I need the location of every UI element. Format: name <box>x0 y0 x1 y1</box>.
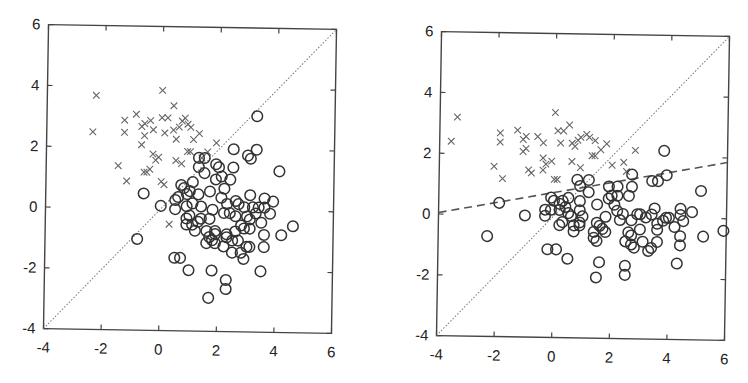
cross-marker <box>133 111 140 118</box>
circle-marker <box>546 192 557 203</box>
circle-marker <box>675 204 686 215</box>
cross-marker <box>528 170 535 177</box>
cross-marker <box>552 109 559 116</box>
circle-marker <box>557 217 568 228</box>
cross-marker <box>138 141 145 148</box>
cross-marker <box>540 167 547 174</box>
circle-marker <box>696 186 707 197</box>
right-plot-canvas: -4-20246-4-20246 <box>374 0 748 383</box>
y-tick-label: -4 <box>415 326 429 343</box>
circle-marker <box>572 174 583 185</box>
circle-marker <box>646 243 657 254</box>
cross-marker <box>161 130 168 137</box>
y-tick-label: 6 <box>32 15 41 32</box>
circle-marker <box>718 226 729 237</box>
circle-marker <box>562 253 573 264</box>
y-tick-label: 0 <box>422 205 431 222</box>
circle-marker <box>627 181 638 192</box>
circle-marker <box>540 210 551 221</box>
cross-marker <box>609 162 616 169</box>
circle-marker <box>132 234 143 245</box>
circle-marker <box>588 232 599 243</box>
circle-marker <box>183 265 194 276</box>
cross-marker <box>534 133 541 140</box>
circle-marker <box>659 145 670 156</box>
circle-marker <box>482 231 493 242</box>
cross-marker <box>89 128 96 135</box>
circle-marker <box>687 207 698 218</box>
cross-marker <box>182 115 189 122</box>
circle-marker <box>590 272 601 283</box>
plot-area: -4-20246-4-20246 <box>415 22 734 367</box>
cross-marker <box>448 138 455 145</box>
circle-marker <box>675 210 686 221</box>
cross-marker <box>523 133 530 140</box>
circle-marker <box>671 258 682 269</box>
y-tick-label: 2 <box>423 144 432 161</box>
circle-marker <box>274 166 285 177</box>
cross-marker <box>540 139 547 146</box>
circle-marker <box>643 246 654 257</box>
y-tick-label: -4 <box>22 319 36 336</box>
circle-marker <box>661 170 672 181</box>
cross-marker <box>620 159 627 166</box>
circle-marker <box>600 211 611 222</box>
circle-marker <box>190 225 201 236</box>
circle-marker <box>258 242 269 253</box>
cross-marker <box>159 87 166 94</box>
circle-marker <box>583 175 594 186</box>
cross-marker <box>196 130 203 137</box>
x-tick-label: -2 <box>94 339 108 356</box>
y-tick-label: 4 <box>31 76 40 93</box>
circle-marker <box>255 266 266 277</box>
circle-marker <box>634 224 645 235</box>
plot-area: -4-20246-4-20246 <box>22 15 341 360</box>
cross-marker <box>141 132 148 139</box>
circle-marker <box>583 187 594 198</box>
cross-marker <box>514 127 521 134</box>
circle-marker <box>187 177 198 188</box>
circle-marker <box>238 254 249 265</box>
diagonal-line <box>436 32 729 341</box>
cross-marker <box>171 102 178 109</box>
cross-marker <box>499 175 506 182</box>
circle-marker <box>216 192 227 203</box>
circle-marker <box>228 162 239 173</box>
x-tick-label: 2 <box>212 341 221 358</box>
cross-marker <box>159 114 166 121</box>
cross-marker <box>497 130 504 137</box>
y-tick-label: -2 <box>23 258 37 275</box>
cross-marker <box>152 157 159 164</box>
cross-marker <box>598 146 605 153</box>
circle-marker <box>554 220 565 231</box>
circle-marker <box>649 203 660 214</box>
cross-marker <box>150 126 157 133</box>
x-tick-label: 4 <box>662 349 671 366</box>
y-tick-label: 2 <box>30 137 39 154</box>
cross-marker <box>572 143 579 150</box>
x-tick-label: 0 <box>547 347 556 364</box>
cross-marker <box>165 114 172 121</box>
cross-marker <box>577 164 584 171</box>
cross-marker <box>540 155 547 162</box>
cross-marker <box>123 178 130 185</box>
circle-marker <box>594 257 605 268</box>
x-tick-label: 0 <box>154 340 163 357</box>
x-tick-label: 4 <box>269 342 278 359</box>
circle-marker <box>259 230 270 241</box>
cross-marker <box>569 158 576 165</box>
cross-marker <box>566 122 573 129</box>
diagonal-line <box>43 25 336 334</box>
x-tick-label: -2 <box>487 346 501 363</box>
cross-marker <box>190 136 197 143</box>
circle-marker <box>520 210 531 221</box>
cross-marker <box>557 140 564 147</box>
right-scatter-plot: -4-20246-4-20246 <box>374 0 748 383</box>
circle-marker <box>199 168 210 179</box>
x-tick-label: 2 <box>605 348 614 365</box>
circle-marker <box>698 231 709 242</box>
cross-marker <box>115 162 122 169</box>
cross-marker <box>497 139 504 146</box>
circle-marker <box>678 216 689 227</box>
cross-marker <box>454 114 461 121</box>
